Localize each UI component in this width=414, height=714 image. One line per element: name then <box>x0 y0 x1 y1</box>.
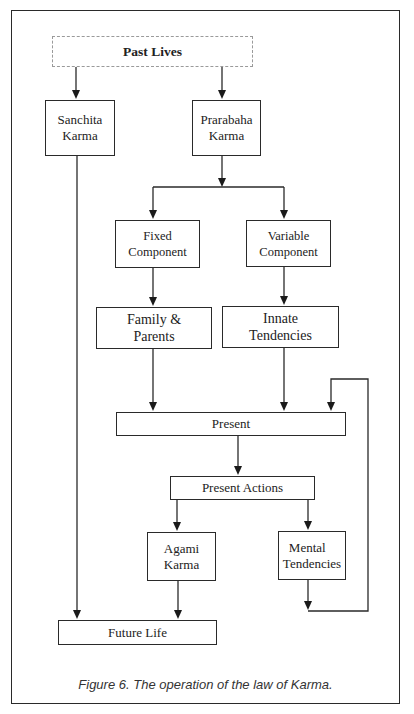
node-label-line: Karma <box>164 557 199 573</box>
node-label-line: Prarabaha <box>201 112 253 128</box>
node-present-label: Present <box>212 416 250 432</box>
node-present-actions: Present Actions <box>170 476 315 500</box>
node-past-lives: Past Lives <box>52 36 253 67</box>
node-sanchita-karma: SanchitaKarma <box>45 100 115 156</box>
node-label-line: Innate <box>249 310 312 327</box>
node-past-lives-label: Past Lives <box>123 44 182 60</box>
node-label-line: Tendencies <box>249 327 312 344</box>
figure-caption: Figure 6. The operation of the law of Ka… <box>11 677 400 692</box>
node-label-line: Karma <box>58 128 103 144</box>
node-fixed-component: FixedComponent <box>115 220 200 268</box>
node-label-line: Component <box>259 244 317 260</box>
node-label-line: Tendencies <box>283 556 341 572</box>
node-label-line: Agami <box>164 541 199 557</box>
node-present: Present <box>116 412 346 436</box>
node-future-life: Future Life <box>58 620 217 645</box>
node-innate-tendencies: InnateTendencies <box>222 306 339 348</box>
node-label-line: Family & <box>127 311 181 328</box>
node-present-actions-label: Present Actions <box>202 480 283 496</box>
node-variable-component: VariableComponent <box>246 220 331 267</box>
node-label-line: Variable <box>259 228 317 244</box>
node-label-line: Fixed <box>128 228 186 244</box>
node-family-parents: Family &Parents <box>96 307 212 349</box>
node-label-line: Mental <box>283 540 341 556</box>
node-agami-karma: AgamiKarma <box>147 532 216 581</box>
node-label-line: Parents <box>127 328 181 345</box>
node-label-line: Karma <box>201 128 253 144</box>
node-prarabaha-karma: PrarabahaKarma <box>192 100 261 156</box>
node-mental-tendencies: MentalTendencies <box>278 531 346 580</box>
node-label-line: Sanchita <box>58 112 103 128</box>
node-label-line: Component <box>128 244 186 260</box>
node-future-life-label: Future Life <box>108 625 167 641</box>
